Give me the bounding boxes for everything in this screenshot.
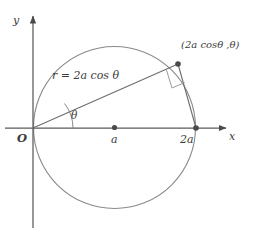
diameter-point-label: 2a <box>180 134 194 145</box>
polar-point-coordinates-label: (2a cosθ ,θ) <box>181 40 239 50</box>
center-point-marker <box>112 125 117 130</box>
chord-line <box>178 64 196 128</box>
center-point-label: a <box>111 134 118 145</box>
y-axis-label: y <box>13 15 19 26</box>
figure-canvas <box>0 0 253 232</box>
x-axis-label: x <box>229 131 235 142</box>
diameter-point-marker <box>193 125 199 131</box>
equation-label: r = 2a cos θ <box>52 70 119 81</box>
polar-point-marker <box>175 61 181 67</box>
theta-angle-label: θ <box>71 110 77 121</box>
polar-circle-figure: y x O a 2a θ r = 2a cos θ (2a cosθ ,θ) <box>0 0 253 232</box>
origin-label: O <box>17 133 27 145</box>
